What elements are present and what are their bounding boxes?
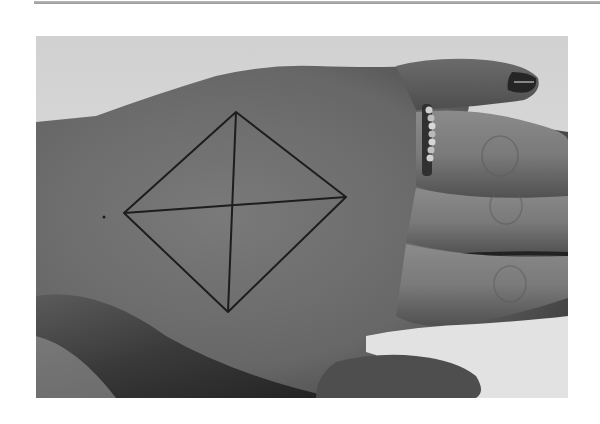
film-grain: [36, 36, 568, 398]
top-rule: [34, 1, 600, 4]
hand-photo: [36, 36, 568, 398]
hand-illustration: [36, 36, 568, 398]
